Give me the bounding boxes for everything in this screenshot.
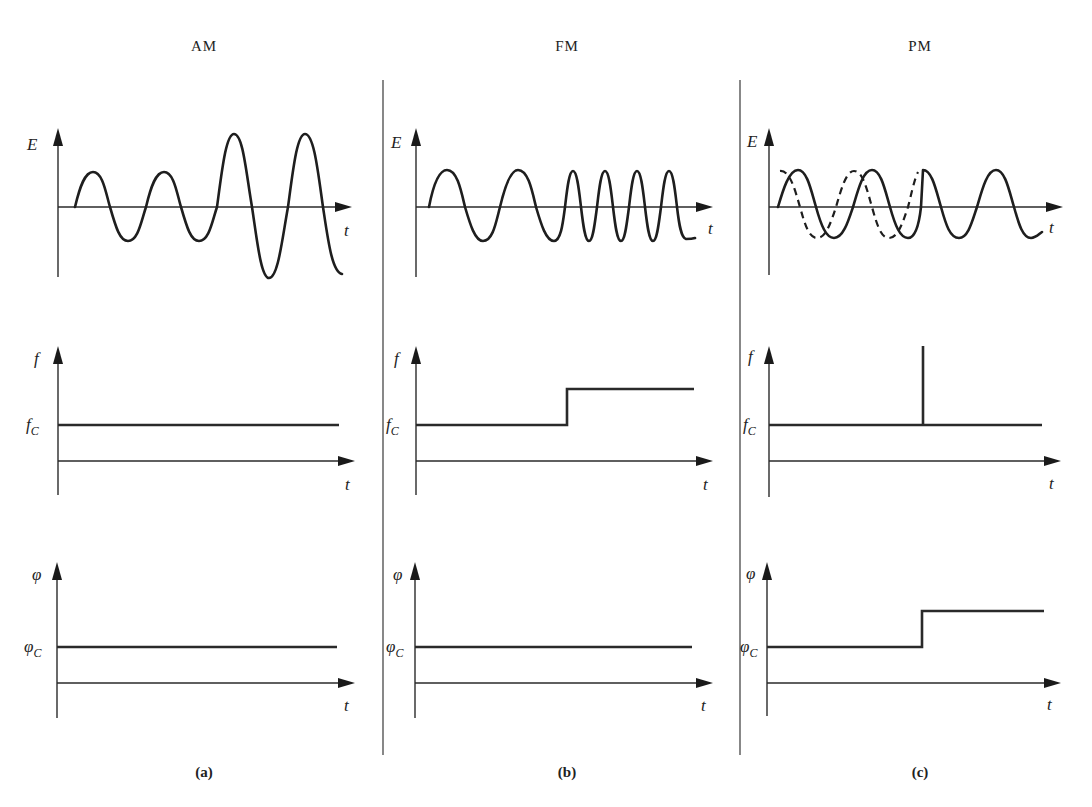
x-axis-label: t: [703, 475, 709, 494]
y-axis-label: E: [390, 133, 402, 152]
carrier-level-label: fC: [743, 415, 757, 438]
am-phase-panel: φ φC t: [24, 562, 355, 718]
caption-b: (b): [558, 764, 576, 781]
modulation-comparison-figure: AM FM PM E t f fC t φ φC t (a): [0, 0, 1092, 807]
caption-a: (a): [195, 764, 213, 781]
y-axis-label: f: [34, 349, 41, 368]
y-axis-label: φ: [32, 565, 41, 584]
y-axis-label: E: [26, 135, 38, 154]
arrow-up-icon: [410, 562, 420, 580]
am-frequency-panel: f fC t: [26, 346, 355, 495]
fm-signal-curve: [429, 170, 695, 241]
x-axis-label: t: [701, 696, 707, 715]
arrow-up-icon: [53, 128, 63, 146]
arrow-up-icon: [764, 346, 774, 364]
x-axis-label: t: [344, 696, 350, 715]
y-axis-label: φ: [746, 564, 755, 583]
fm-frequency-panel: f fC t: [386, 346, 713, 495]
arrow-up-icon: [411, 128, 421, 146]
arrow-right-icon: [338, 456, 355, 466]
fm-phase-panel: φ φC t: [386, 562, 713, 718]
pm-waveform-panel: E t: [746, 128, 1063, 275]
carrier-level-label: φC: [24, 637, 42, 660]
x-axis-label: t: [708, 219, 714, 238]
y-axis-label: f: [748, 347, 755, 366]
arrow-up-icon: [411, 346, 421, 364]
carrier-level-label: fC: [386, 415, 400, 438]
arrow-up-icon: [52, 562, 62, 580]
x-axis-label: t: [1049, 474, 1055, 493]
am-waveform-panel: E t: [26, 128, 352, 278]
y-axis-label: f: [394, 349, 401, 368]
column-title-pm: PM: [908, 38, 932, 54]
carrier-level-label: φC: [740, 637, 758, 660]
frequency-step-line: [416, 389, 694, 425]
arrow-right-icon: [696, 456, 713, 466]
arrow-right-icon: [338, 678, 355, 688]
arrow-right-icon: [1046, 202, 1063, 212]
arrow-right-icon: [335, 202, 352, 212]
pm-signal-curve: [778, 170, 1042, 238]
fm-waveform-panel: E t: [390, 128, 714, 277]
carrier-level-label: φC: [386, 637, 404, 660]
arrow-up-icon: [53, 346, 63, 364]
caption-c: (c): [912, 764, 929, 781]
arrow-right-icon: [696, 202, 713, 212]
x-axis-label: t: [345, 475, 351, 494]
arrow-up-icon: [762, 562, 772, 580]
y-axis-label: E: [746, 132, 758, 151]
x-axis-label: t: [1047, 695, 1053, 714]
pm-frequency-panel: f fC t: [743, 346, 1061, 497]
arrow-right-icon: [696, 678, 713, 688]
carrier-level-label: fC: [26, 415, 40, 438]
column-title-fm: FM: [555, 38, 579, 54]
pm-phase-panel: φ φC t: [740, 562, 1061, 716]
x-axis-label: t: [1049, 218, 1055, 237]
am-signal-curve: [75, 134, 342, 278]
phase-step-line: [767, 611, 1044, 647]
y-axis-label: φ: [393, 565, 402, 584]
x-axis-label: t: [344, 221, 350, 240]
arrow-right-icon: [1044, 678, 1061, 688]
arrow-right-icon: [1044, 456, 1061, 466]
arrow-up-icon: [764, 128, 774, 146]
column-title-am: AM: [191, 38, 217, 54]
